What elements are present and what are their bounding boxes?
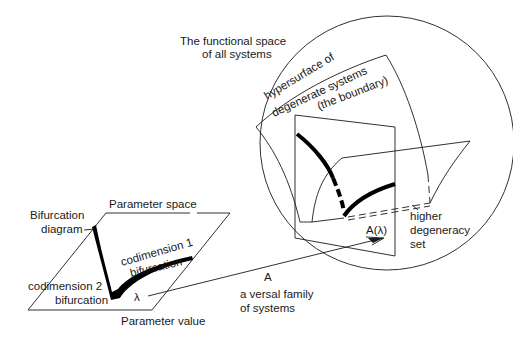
- image-point-label: A(λ): [366, 224, 387, 236]
- versal-family-label-line1: a versal family: [240, 288, 314, 300]
- functional-space-title-line1: The functional space: [180, 35, 286, 47]
- codim2-label-line2: bifurcation: [55, 294, 108, 306]
- bifurcation-diagram-label-line2: diagram: [41, 223, 83, 235]
- codim2-label-line1: codimension 2: [28, 280, 102, 292]
- sphere-bifurcation-curves: [297, 134, 395, 216]
- parameter-space-label: Parameter space: [109, 198, 197, 210]
- versal-family-label-line2: of systems: [240, 302, 295, 314]
- parameter-value-label: Parameter value: [121, 315, 205, 327]
- lambda-label: λ: [134, 291, 140, 303]
- bifurcation-diagram-label-line1: Bifurcation: [30, 209, 84, 221]
- higher-degeneracy-label-line2: degeneracy: [410, 224, 470, 236]
- higher-degeneracy-label-line1: higher: [410, 210, 442, 222]
- higher-degeneracy-label-line3: set: [410, 238, 426, 250]
- map-a-label: A: [264, 271, 272, 283]
- bifurcation-diagram-figure: The functional space of all systems hype…: [0, 0, 513, 342]
- functional-space-title-line2: of all systems: [202, 48, 272, 60]
